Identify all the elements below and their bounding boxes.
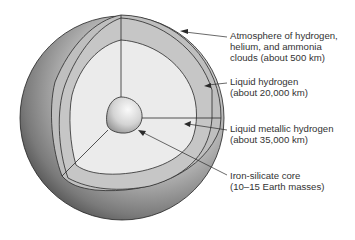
label-liquid-metallic-hydrogen: Liquid metallic hydrogen (about 35,000 k… xyxy=(230,123,333,145)
label-line: Liquid metallic hydrogen xyxy=(230,123,333,134)
label-line: (10–15 Earth masses) xyxy=(230,181,324,192)
label-line: Iron-silicate core xyxy=(230,170,324,181)
label-core: Iron-silicate core (10–15 Earth masses) xyxy=(230,170,324,192)
label-line: clouds (about 500 km) xyxy=(230,52,338,63)
label-line: (about 35,000 km) xyxy=(230,134,333,145)
label-line: helium, and ammonia xyxy=(230,41,338,52)
label-line: Atmosphere of hydrogen, xyxy=(230,30,338,41)
leader-atmosphere xyxy=(180,29,227,37)
label-line: (about 20,000 km) xyxy=(230,87,308,98)
label-liquid-hydrogen: Liquid hydrogen (about 20,000 km) xyxy=(230,76,308,98)
label-line: Liquid hydrogen xyxy=(230,76,308,87)
label-atmosphere: Atmosphere of hydrogen, helium, and ammo… xyxy=(230,30,338,64)
